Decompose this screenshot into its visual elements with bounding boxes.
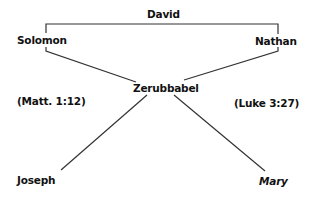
node-david: David bbox=[147, 8, 180, 20]
reference-matthew: (Matt. 1:12) bbox=[17, 95, 86, 107]
edge-solomon-zerubbabel bbox=[46, 47, 136, 82]
node-nathan: Nathan bbox=[255, 35, 297, 47]
node-joseph: Joseph bbox=[17, 174, 55, 186]
node-zerubbabel: Zerubbabel bbox=[133, 82, 199, 94]
edge-nathan-zerubbabel bbox=[184, 47, 278, 80]
node-mary: Mary bbox=[259, 175, 288, 187]
node-solomon: Solomon bbox=[17, 34, 67, 46]
edge-david-bracket bbox=[46, 24, 278, 34]
reference-luke: (Luke 3:27) bbox=[234, 97, 299, 109]
